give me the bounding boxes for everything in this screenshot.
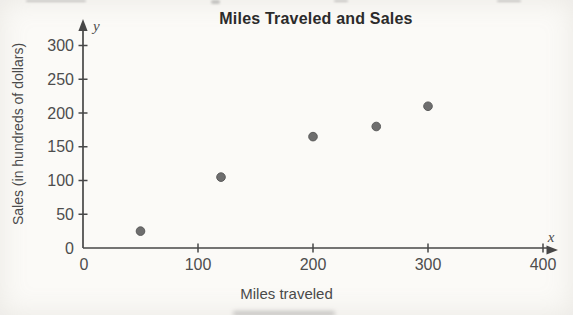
scatter-plot-figure: Miles Traveled and Sales Sales (in hundr… xyxy=(0,0,573,315)
scan-artifact xyxy=(233,311,335,315)
x-tick-label: 200 xyxy=(300,256,327,273)
scan-artifact xyxy=(497,0,521,2)
data-point xyxy=(372,122,381,131)
y-axis-letter: y xyxy=(91,18,100,34)
x-tick-label: 0 xyxy=(80,256,89,273)
x-axis-letter: x xyxy=(547,229,555,245)
scan-artifact xyxy=(334,0,348,2)
y-tick-label: 0 xyxy=(65,240,74,257)
data-point xyxy=(424,102,433,111)
y-tick-label: 300 xyxy=(47,37,74,54)
x-tick-label: 100 xyxy=(185,256,212,273)
x-axis-arrow-icon xyxy=(547,245,559,254)
data-point xyxy=(217,173,226,182)
x-tick-label: 400 xyxy=(530,256,557,273)
x-axis-title: Miles traveled xyxy=(0,285,573,302)
data-point xyxy=(136,227,145,236)
y-tick-label: 100 xyxy=(47,172,74,189)
scan-artifact xyxy=(211,0,220,4)
y-axis-arrow-icon xyxy=(78,19,87,31)
x-tick-label: 300 xyxy=(415,256,442,273)
y-tick-label: 200 xyxy=(47,105,74,122)
plot-area: yx0501001502002503000100200300400 xyxy=(0,0,573,315)
data-point xyxy=(309,132,318,141)
y-tick-label: 150 xyxy=(47,138,74,155)
scan-artifact xyxy=(26,0,86,2)
y-tick-label: 50 xyxy=(56,206,74,223)
y-tick-label: 250 xyxy=(47,71,74,88)
